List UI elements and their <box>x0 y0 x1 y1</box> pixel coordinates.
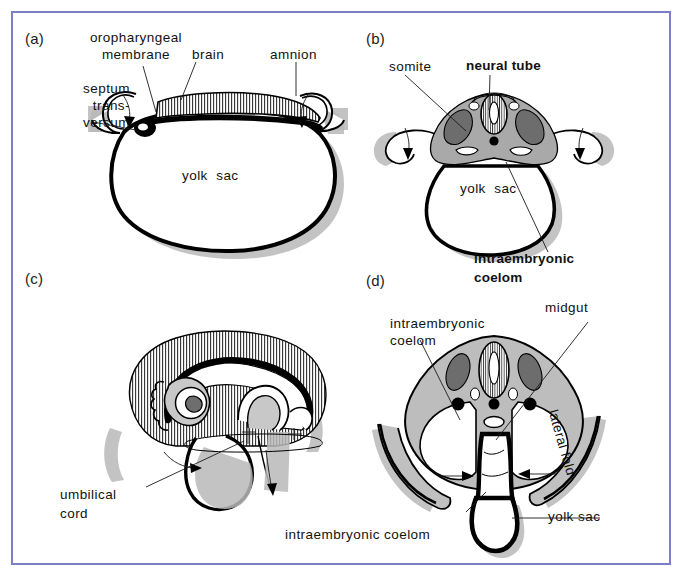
label-oropharyngeal-membrane-line2: membrane <box>66 47 206 64</box>
label-septum-transversum-line3: versum <box>18 115 130 132</box>
label-septum-transversum-line1: septum <box>18 81 130 98</box>
label-intraembryonic-coelom-b-line2: coelom <box>474 270 522 287</box>
label-intraembryonic-coelom-d-bottom: intraembryonic coelom <box>285 527 430 544</box>
label-intraembryonic-coelom-b-line1: intraembryonic <box>474 251 574 268</box>
label-neural-tube: neural tube <box>466 58 541 75</box>
label-oropharyngeal-membrane-line1: oropharyngeal <box>66 30 206 47</box>
label-intraembryonic-coelom-d-line2: coelom <box>390 333 436 350</box>
label-somite: somite <box>389 59 431 76</box>
label-amnion: amnion <box>270 47 317 64</box>
label-yolk-sac-d: yolk sac <box>548 509 600 526</box>
label-umbilical-cord-line1: umbilical <box>60 487 117 504</box>
panel-letter-c: (c) <box>25 270 43 287</box>
label-septum-transversum-line2: trans- <box>18 98 130 115</box>
embryonic-folding-figure: (a) (b) (c) (d) oropharyngeal membrane b… <box>0 0 688 581</box>
panel-letter-d: (d) <box>366 272 385 289</box>
label-yolk-sac-b: yolk sac <box>460 181 517 198</box>
label-yolk-sac-a: yolk sac <box>182 168 239 185</box>
panel-letter-b: (b) <box>366 30 385 47</box>
label-brain: brain <box>192 47 224 64</box>
label-umbilical-cord-line2: cord <box>60 506 88 523</box>
panel-letter-a: (a) <box>25 30 44 47</box>
label-midgut: midgut <box>545 300 588 317</box>
label-intraembryonic-coelom-d-line1: intraembryonic <box>390 316 485 333</box>
